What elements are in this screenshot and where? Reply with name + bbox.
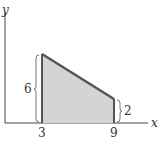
- x-tick-3: 3: [38, 126, 46, 140]
- x-tick-9: 9: [110, 126, 118, 140]
- trapezoid-diagram: y x 6 2 3 9: [0, 0, 164, 145]
- y-axis-label: y: [1, 3, 9, 17]
- left-brace-icon: [34, 55, 39, 122]
- shaded-region: [42, 54, 114, 123]
- x-axis-label: x: [151, 116, 158, 130]
- right-height-label: 2: [124, 104, 132, 118]
- left-height-label: 6: [24, 82, 32, 96]
- right-brace-icon: [117, 100, 122, 122]
